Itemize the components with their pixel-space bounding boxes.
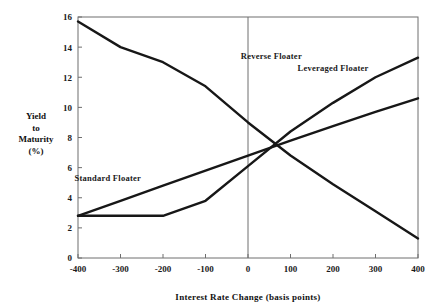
series-label-leveraged-floater: Leveraged Floater — [297, 63, 368, 73]
chart-figure: -400-300-200-1000100200300400 0246810121… — [0, 0, 436, 307]
x-tick-label: -300 — [112, 264, 129, 274]
chart-canvas: -400-300-200-1000100200300400 0246810121… — [0, 0, 436, 307]
x-tick-label: 300 — [369, 264, 383, 274]
y-tick-label: 10 — [63, 103, 73, 113]
y-tick-label: 2 — [68, 223, 73, 233]
y-axis-title-line: Yield — [26, 111, 46, 121]
y-tick-label: 6 — [68, 163, 73, 173]
y-tick-label: 14 — [63, 43, 73, 53]
y-tick-label: 16 — [63, 12, 73, 22]
series-label-standard-floater: Standard Floater — [74, 173, 141, 183]
y-tick-label: 8 — [68, 133, 73, 143]
x-tick-label: -200 — [155, 264, 172, 274]
y-axis-title-line: (%) — [29, 146, 44, 156]
y-tick-label: 0 — [68, 253, 73, 263]
y-axis-title-line: to — [32, 123, 40, 133]
y-axis-title-line: Maturity — [19, 134, 54, 144]
x-tick-label: 200 — [326, 264, 340, 274]
y-tick-label: 4 — [68, 193, 73, 203]
x-tick-label: 400 — [411, 264, 425, 274]
x-tick-label: 100 — [284, 264, 298, 274]
x-tick-label: 0 — [246, 264, 251, 274]
series-label-reverse-floater: Reverse Floater — [241, 51, 302, 61]
x-axis-title: Interest Rate Change (basis points) — [175, 292, 320, 302]
y-tick-label: 12 — [63, 73, 73, 83]
x-tick-label: -100 — [197, 264, 214, 274]
x-tick-label: -400 — [70, 264, 87, 274]
